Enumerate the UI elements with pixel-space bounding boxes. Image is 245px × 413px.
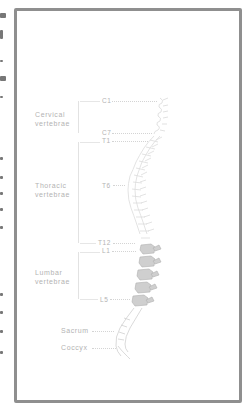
cervical-vertebrae — [154, 98, 168, 134]
sacrum-coccyx — [116, 308, 142, 359]
thoracic-vertebrae — [128, 136, 162, 238]
lumbar-vertebrae — [132, 244, 161, 306]
spine-illustration — [0, 0, 245, 413]
